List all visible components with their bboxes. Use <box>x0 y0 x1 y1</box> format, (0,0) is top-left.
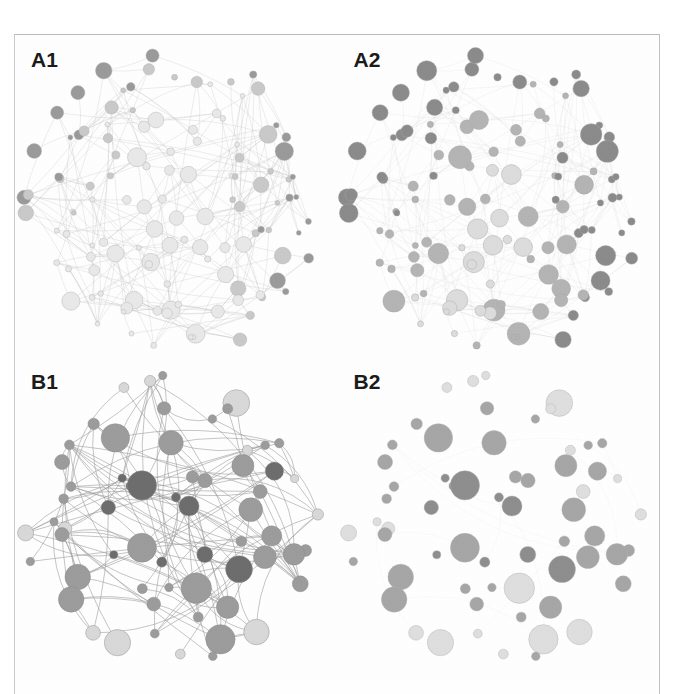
graph-node[interactable] <box>566 619 592 645</box>
graph-node[interactable] <box>421 237 431 247</box>
graph-node[interactable] <box>244 619 270 645</box>
graph-node[interactable] <box>268 169 274 175</box>
graph-node[interactable] <box>618 230 624 236</box>
graph-node[interactable] <box>181 236 188 243</box>
graph-node[interactable] <box>186 324 205 343</box>
graph-node[interactable] <box>487 583 495 591</box>
graph-node[interactable] <box>377 455 392 470</box>
graph-node[interactable] <box>562 93 568 99</box>
graph-node[interactable] <box>23 190 33 200</box>
graph-node[interactable] <box>137 584 147 594</box>
graph-node[interactable] <box>86 252 95 261</box>
graph-node[interactable] <box>180 166 196 182</box>
graph-node[interactable] <box>576 485 590 499</box>
graph-node[interactable] <box>286 194 293 201</box>
graph-node[interactable] <box>90 243 95 248</box>
graph-node[interactable] <box>128 148 147 167</box>
graph-node[interactable] <box>112 151 120 159</box>
graph-node[interactable] <box>171 493 180 502</box>
graph-node[interactable] <box>169 211 184 226</box>
graph-node[interactable] <box>554 294 567 307</box>
graph-node[interactable] <box>481 431 505 455</box>
graph-node[interactable] <box>424 500 438 514</box>
graph-node[interactable] <box>148 112 164 128</box>
graph-node[interactable] <box>625 252 637 264</box>
graph-node[interactable] <box>127 471 156 500</box>
graph-node[interactable] <box>554 331 570 347</box>
graph-node[interactable] <box>549 78 557 86</box>
graph-node[interactable] <box>197 208 214 225</box>
graph-node[interactable] <box>606 544 628 566</box>
graph-node[interactable] <box>262 526 282 546</box>
graph-node[interactable] <box>486 164 498 176</box>
graph-node[interactable] <box>98 291 103 296</box>
graph-node[interactable] <box>86 182 94 190</box>
graph-node[interactable] <box>590 168 597 175</box>
graph-node[interactable] <box>208 415 217 424</box>
graph-node[interactable] <box>612 174 619 181</box>
graph-node[interactable] <box>450 533 479 562</box>
graph-node[interactable] <box>119 383 129 393</box>
graph-node[interactable] <box>501 496 521 516</box>
graph-node[interactable] <box>197 546 213 562</box>
graph-node[interactable] <box>181 573 211 603</box>
graph-node[interactable] <box>258 226 265 233</box>
graph-node[interactable] <box>494 493 503 502</box>
graph-node[interactable] <box>441 474 449 482</box>
graph-node[interactable] <box>240 93 245 98</box>
graph-node[interactable] <box>253 546 276 569</box>
graph-node[interactable] <box>100 238 108 246</box>
graph-node[interactable] <box>469 110 488 129</box>
graph-node[interactable] <box>595 246 615 266</box>
graph-node[interactable] <box>220 116 226 122</box>
graph-node[interactable] <box>55 173 63 181</box>
graph-node[interactable] <box>127 533 156 562</box>
graph-node[interactable] <box>55 527 69 541</box>
graph-node[interactable] <box>159 431 183 455</box>
graph-node[interactable] <box>556 152 567 163</box>
graph-node[interactable] <box>121 88 126 93</box>
graph-node[interactable] <box>387 564 413 590</box>
graph-node[interactable] <box>192 239 207 254</box>
graph-node[interactable] <box>179 496 199 516</box>
graph-node[interactable] <box>51 106 64 119</box>
graph-node[interactable] <box>408 625 423 640</box>
graph-node[interactable] <box>466 260 476 270</box>
graph-node[interactable] <box>86 625 101 640</box>
graph-node[interactable] <box>283 544 305 566</box>
graph-node[interactable] <box>235 153 244 162</box>
graph-node[interactable] <box>79 126 89 136</box>
graph-node[interactable] <box>588 462 606 480</box>
graph-node[interactable] <box>121 309 126 314</box>
graph-node[interactable] <box>217 266 233 282</box>
graph-node[interactable] <box>448 82 458 92</box>
graph-node[interactable] <box>576 546 599 569</box>
graph-node[interactable] <box>239 498 263 522</box>
graph-node[interactable] <box>385 230 394 239</box>
graph-node[interactable] <box>127 83 136 92</box>
graph-node[interactable] <box>153 306 162 315</box>
graph-node[interactable] <box>188 335 193 340</box>
graph-node[interactable] <box>519 546 535 562</box>
graph-node[interactable] <box>458 245 464 251</box>
graph-node[interactable] <box>545 404 555 414</box>
graph-node[interactable] <box>270 273 286 289</box>
graph-node[interactable] <box>162 237 178 253</box>
graph-node[interactable] <box>58 587 84 613</box>
graph-node[interactable] <box>490 209 508 227</box>
graph-node[interactable] <box>443 87 449 93</box>
graph-node[interactable] <box>304 253 314 263</box>
graph-node[interactable] <box>230 281 245 296</box>
graph-node[interactable] <box>55 455 70 470</box>
graph-node[interactable] <box>497 300 505 308</box>
panel-a2[interactable]: A2 <box>337 35 660 357</box>
graph-node[interactable] <box>253 177 269 193</box>
graph-node[interactable] <box>232 174 238 180</box>
graph-node[interactable] <box>392 84 409 101</box>
graph-node[interactable] <box>591 271 610 290</box>
graph-node[interactable] <box>208 82 213 87</box>
graph-node[interactable] <box>467 48 483 64</box>
graph-node[interactable] <box>460 584 470 594</box>
graph-node[interactable] <box>294 195 299 200</box>
graph-node[interactable] <box>118 474 126 482</box>
